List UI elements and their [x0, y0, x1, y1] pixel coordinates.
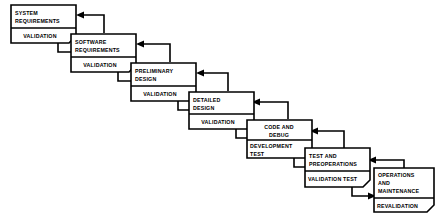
- validation-label-software-requirements: VALIDATION: [83, 62, 116, 68]
- stage-label-test-and-preoperations-line1: TEST AND: [309, 153, 337, 159]
- stage-label-preliminary-design-line1: PRELIMINARY: [135, 68, 174, 74]
- waterfall-diagram-canvas: SYSTEM REQUIREMENTS VALIDATION SOFTWARE …: [0, 0, 439, 217]
- stage-label-software-requirements-line2: REQUIREMENTS: [75, 47, 120, 53]
- connector-feedback-2: [136, 41, 170, 63]
- stage-label-test-and-preoperations-line2: PREOPERATIONS: [309, 161, 357, 167]
- stage-label-preliminary-design-line2: DESIGN: [135, 76, 156, 82]
- stage-label-software-requirements-line1: SOFTWARE: [75, 39, 107, 45]
- stage-label-code-and-debug-line2: DEBUG: [269, 132, 289, 138]
- validation-label-test-and-preoperations: VALIDATION TEST: [308, 176, 358, 182]
- validation-label-code-and-debug-line1: DEVELOPMENT: [250, 143, 293, 149]
- stage-box-detailed-design: DETAILED DESIGN VALIDATION: [189, 92, 254, 129]
- stage-box-software-requirements: SOFTWARE REQUIREMENTS VALIDATION: [71, 34, 136, 72]
- connector-forward-6: [352, 187, 376, 200]
- stage-label-operations-and-maintenance-line1: OPERATIONS: [378, 172, 415, 178]
- stage-label-system-requirements-line2: REQUIREMENTS: [15, 18, 60, 24]
- connector-feedback-1: [76, 12, 104, 34]
- validation-label-code-and-debug-line2: TEST: [250, 151, 265, 157]
- stage-label-detailed-design-line2: DESIGN: [193, 105, 214, 111]
- stage-box-test-and-preoperations: TEST AND PREOPERATIONS VALIDATION TEST: [305, 148, 370, 187]
- stage-box-code-and-debug: CODE AND DEBUG DEVELOPMENT TEST: [247, 120, 312, 158]
- validation-label-detailed-design: VALIDATION: [201, 119, 234, 125]
- stage-label-system-requirements-line1: SYSTEM: [15, 10, 38, 16]
- stage-box-operations-and-maintenance: OPERATIONS AND MAINTENANCE REVALIDATION: [374, 168, 434, 212]
- stage-label-detailed-design-line1: DETAILED: [193, 97, 221, 103]
- stage-box-system-requirements: SYSTEM REQUIREMENTS VALIDATION: [11, 5, 76, 43]
- stage-label-operations-and-maintenance-line3: MAINTENANCE: [378, 188, 419, 194]
- connector-feedback-3: [196, 70, 228, 92]
- connector-feedback-5: [310, 128, 344, 149]
- stage-box-preliminary-design: PRELIMINARY DESIGN VALIDATION: [131, 63, 196, 101]
- validation-label-preliminary-design: VALIDATION: [143, 91, 176, 97]
- stage-label-code-and-debug-line1: CODE AND: [264, 124, 294, 130]
- validation-label-system-requirements: VALIDATION: [23, 33, 56, 39]
- waterfall-diagram: SYSTEM REQUIREMENTS VALIDATION SOFTWARE …: [0, 0, 439, 217]
- stage-label-operations-and-maintenance-line2: AND: [378, 180, 390, 186]
- connector-feedback-4: [252, 99, 288, 120]
- validation-label-operations-and-maintenance: REVALIDATION: [377, 203, 418, 209]
